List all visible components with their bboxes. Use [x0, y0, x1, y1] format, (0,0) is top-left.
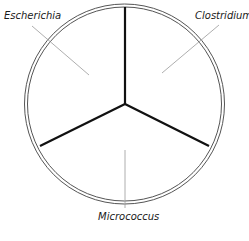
divider-left: [40, 104, 125, 146]
leader-line-clostridium: [162, 25, 219, 73]
petri-dish-diagram: [0, 0, 249, 241]
divider-right: [125, 104, 209, 146]
label-escherichia: Escherichia: [4, 10, 61, 22]
section-divider: [40, 7, 209, 146]
label-micrococcus: Micrococcus: [98, 211, 159, 223]
label-clostridium: Clostridium: [195, 10, 249, 22]
